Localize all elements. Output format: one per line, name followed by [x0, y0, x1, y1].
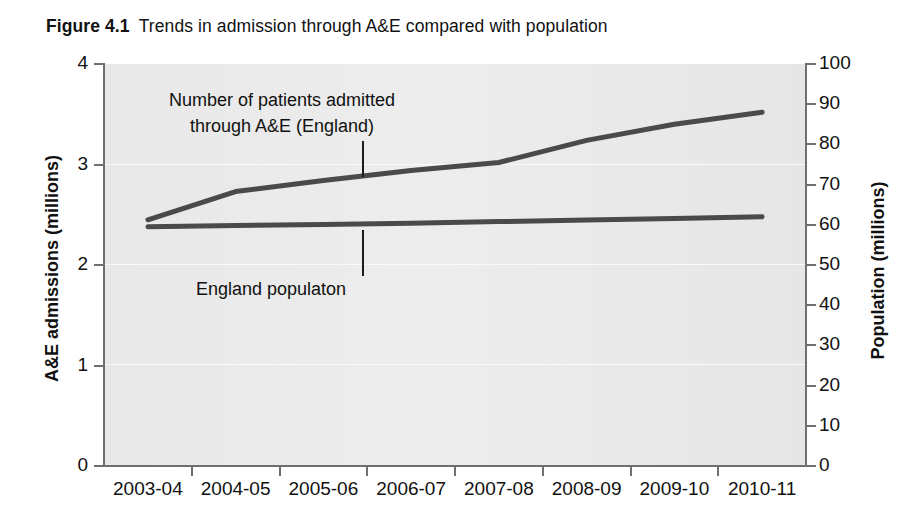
y-axis-right-tick-label: 70 — [819, 173, 840, 195]
y-axis-left-line — [103, 63, 105, 467]
y-axis-right-tick — [807, 264, 816, 266]
y-axis-left-title: A&E admissions (millions) — [42, 129, 63, 409]
x-axis-tick-label: 2003-04 — [100, 478, 196, 500]
annotation-population: England populaton — [196, 277, 346, 303]
y-axis-left-tick-label: 4 — [48, 52, 88, 74]
annotation-admissions-line2: through A&E (England) — [134, 114, 430, 140]
leader-line-population — [362, 230, 364, 276]
y-axis-left-tick — [94, 164, 103, 166]
y-axis-right-title: Population (millions) — [868, 131, 889, 411]
y-axis-right-tick — [807, 465, 816, 467]
x-axis-tick-label: 2008-09 — [539, 478, 635, 500]
y-axis-right-tick-label: 80 — [819, 132, 840, 154]
y-axis-left-tick-label: 0 — [48, 454, 88, 476]
y-axis-left-tick — [94, 264, 103, 266]
gridline-3 — [104, 164, 806, 165]
y-axis-right-tick — [807, 143, 816, 145]
y-axis-right-tick-label: 100 — [819, 52, 851, 74]
line-chart: 01234 0102030405060708090100 2003-042004… — [0, 0, 909, 526]
y-axis-right-tick — [807, 385, 816, 387]
x-axis-tick — [630, 467, 632, 476]
gridline-1 — [104, 364, 806, 365]
y-axis-right-tick — [807, 344, 816, 346]
x-axis-tick-label: 2009-10 — [626, 478, 722, 500]
x-axis-tick-label: 2010-11 — [714, 478, 810, 500]
annotation-admissions: Number of patients admitted through A&E … — [134, 88, 430, 139]
x-axis-tick-label: 2006-07 — [363, 478, 459, 500]
x-axis-tick-label: 2005-06 — [275, 478, 371, 500]
y-axis-right-tick-label: 90 — [819, 92, 840, 114]
annotation-admissions-line1: Number of patients admitted — [134, 88, 430, 114]
y-axis-left-tick — [94, 465, 103, 467]
y-axis-right-tick — [807, 304, 816, 306]
gridline-2 — [104, 264, 806, 265]
y-axis-right-tick — [807, 103, 816, 105]
x-axis-tick — [279, 467, 281, 476]
y-axis-right-tick — [807, 425, 816, 427]
y-axis-right-tick-label: 60 — [819, 213, 840, 235]
x-axis-tick — [542, 467, 544, 476]
y-axis-right-tick-label: 20 — [819, 374, 840, 396]
x-axis-tick — [191, 467, 193, 476]
y-axis-right-tick-label: 40 — [819, 293, 840, 315]
y-axis-right-tick-label: 0 — [819, 454, 830, 476]
x-axis-tick — [454, 467, 456, 476]
y-axis-right-tick — [807, 224, 816, 226]
y-axis-right-tick — [807, 63, 816, 65]
x-axis-tick-label: 2004-05 — [188, 478, 284, 500]
y-axis-right-tick-label: 30 — [819, 333, 840, 355]
y-axis-right-tick-label: 50 — [819, 253, 840, 275]
y-axis-right-tick-label: 10 — [819, 414, 840, 436]
x-axis-tick — [717, 467, 719, 476]
y-axis-left-tick — [94, 63, 103, 65]
y-axis-right-tick — [807, 184, 816, 186]
y-axis-left-tick — [94, 365, 103, 367]
leader-line-admissions — [362, 141, 364, 177]
x-axis-tick — [366, 467, 368, 476]
x-axis-tick-label: 2007-08 — [451, 478, 547, 500]
